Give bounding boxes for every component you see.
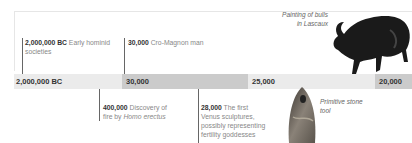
event-year: 400,000 — [103, 104, 128, 111]
timeline-band-2000000bc: 2,000,000 BC — [14, 74, 122, 89]
bull-caption: Painting of bulls in Lascaux — [270, 10, 328, 28]
event-year: 2,000,000 BC — [25, 39, 67, 46]
stone-tool-image — [287, 87, 317, 143]
stone-caption-line1: Primitive stone — [320, 97, 363, 106]
timeline-band-20000: 20,000 — [375, 74, 412, 89]
event-early-hominid: 2,000,000 BC Early hominid societies — [25, 38, 115, 56]
event-venus-sculptures: 28,000 The first Venus sculptures, possi… — [201, 103, 267, 139]
timeline-band-30000: 30,000 — [122, 74, 248, 89]
stone-tool-caption: Primitive stone tool — [320, 97, 363, 115]
bull-caption-line1: Painting of bulls — [270, 10, 328, 19]
stone-caption-line2: tool — [320, 106, 363, 115]
tick-2000000bc — [22, 38, 23, 74]
tick-28000 — [198, 89, 199, 143]
event-cro-magnon: 30,000 Cro-Magnon man — [128, 38, 238, 47]
frame-left-rule — [14, 11, 15, 71]
tick-30000 — [124, 38, 125, 74]
event-year: 28,000 — [201, 104, 222, 111]
bull-painting-image — [330, 10, 412, 76]
event-fire-discovery: 400,000 Discovery of fire by Homo erectu… — [103, 103, 175, 121]
event-year: 30,000 — [128, 39, 149, 46]
event-text-italic: Homo erectus — [123, 113, 165, 120]
event-text: Cro-Magnon man — [151, 39, 204, 46]
bull-caption-line2: in Lascaux — [270, 19, 328, 28]
tick-400000 — [99, 89, 100, 121]
